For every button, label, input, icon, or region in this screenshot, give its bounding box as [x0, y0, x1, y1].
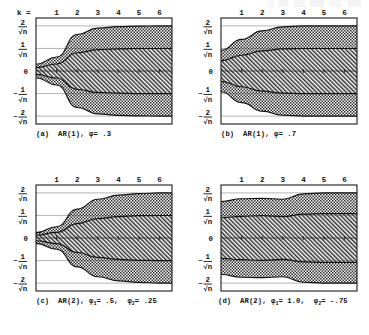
svg-text:AR(2),: AR(2), — [240, 297, 266, 305]
x-tick-label-6: 6 — [342, 9, 347, 17]
panel-a: 2√n1√n01√n–2√n–123456k =(a) AR(1), φ = .… — [0, 0, 185, 167]
panel-d-caption: (d) AR(2), φ1 = 1.0, φ2 = -.75 — [218, 297, 348, 307]
svg-text:AR(2),: AR(2), — [58, 297, 84, 305]
x-tick-label-6: 6 — [157, 9, 162, 17]
svg-text:–: – — [198, 255, 203, 264]
svg-text:1: 1 — [21, 86, 26, 94]
svg-text:√n: √n — [203, 285, 212, 293]
y-tick-label-0: 0 — [209, 68, 214, 76]
svg-text:√n: √n — [18, 28, 27, 36]
y-tick-label-m2: 2√n– — [13, 276, 27, 293]
svg-text:1: 1 — [206, 86, 211, 94]
panel-d: 2√n1√n01√n–2√n–123456(d) AR(2), φ1 = 1.0… — [185, 167, 369, 335]
x-tick-label-6: 6 — [157, 176, 162, 184]
x-tick-label-4: 4 — [116, 176, 121, 184]
svg-text:–: – — [13, 111, 18, 120]
svg-text:2: 2 — [206, 186, 210, 194]
svg-text:√n: √n — [18, 263, 27, 271]
svg-text:1: 1 — [206, 253, 211, 261]
y-tick-label-p2: 2√n — [18, 186, 27, 203]
y-tick-label-m1: 1√n– — [198, 253, 212, 270]
y-tick-label-m1: 1√n– — [13, 253, 27, 270]
svg-text:2: 2 — [21, 276, 25, 284]
x-tick-label-2: 2 — [260, 176, 265, 184]
y-tick-label-0: 0 — [209, 235, 214, 243]
svg-text:–: – — [198, 88, 203, 97]
panel-a-caption: (a) AR(1), φ = .3 — [36, 130, 111, 138]
panel-c-plot: 2√n1√n01√n–2√n–123456(c) AR(2), φ1 = .5,… — [0, 167, 185, 335]
svg-text:√n: √n — [203, 96, 212, 104]
x-tick-label-3: 3 — [281, 9, 286, 17]
svg-text:√n: √n — [203, 118, 212, 126]
svg-text:–: – — [13, 255, 18, 264]
y-tick-label-p1: 1√n — [203, 208, 212, 225]
svg-text:= .7: = .7 — [278, 130, 296, 138]
svg-text:√n: √n — [18, 285, 27, 293]
svg-text:√n: √n — [18, 118, 27, 126]
svg-text:1: 1 — [21, 253, 26, 261]
figure-sheet: 2√n1√n01√n–2√n–123456k =(a) AR(1), φ = .… — [0, 0, 369, 335]
svg-text:(a): (a) — [36, 130, 49, 138]
svg-text:√n: √n — [203, 218, 212, 226]
svg-text:(d): (d) — [218, 297, 231, 305]
svg-text:(b): (b) — [221, 130, 234, 138]
panel-b: 2√n1√n01√n–2√n–123456(b) AR(1), φ = .7 — [185, 0, 369, 167]
y-tick-label-m1: 1√n– — [198, 86, 212, 103]
svg-text:√n: √n — [18, 96, 27, 104]
svg-text:√n: √n — [18, 195, 27, 203]
y-tick-label-p1: 1√n — [18, 208, 27, 225]
x-tick-label-2: 2 — [75, 176, 80, 184]
svg-text:= .5,: = .5, — [96, 297, 118, 305]
svg-text:= -.75: = -.75 — [321, 297, 347, 305]
svg-text:1: 1 — [21, 41, 26, 49]
svg-text:1: 1 — [206, 41, 211, 49]
x-tick-label-5: 5 — [137, 176, 142, 184]
svg-text:= .3: = .3 — [93, 130, 111, 138]
x-tick-label-6: 6 — [342, 176, 347, 184]
svg-text:1: 1 — [21, 208, 26, 216]
svg-text:√n: √n — [203, 195, 212, 203]
svg-text:2: 2 — [21, 109, 25, 117]
svg-text:2: 2 — [206, 19, 210, 27]
svg-text:–: – — [198, 111, 203, 120]
y-tick-label-p2: 2√n — [18, 19, 27, 36]
svg-text:√n: √n — [18, 51, 27, 59]
svg-text:AR(1),: AR(1), — [58, 130, 84, 138]
svg-text:= 1.0,: = 1.0, — [278, 297, 304, 305]
svg-text:2: 2 — [21, 19, 25, 27]
x-tick-label-1: 1 — [54, 176, 59, 184]
y-tick-label-0: 0 — [24, 68, 29, 76]
y-tick-label-p2: 2√n — [203, 19, 212, 36]
panel-d-plot: 2√n1√n01√n–2√n–123456(d) AR(2), φ1 = 1.0… — [185, 167, 369, 335]
svg-text:= .25: = .25 — [135, 297, 157, 305]
svg-text:2: 2 — [206, 276, 210, 284]
x-tick-label-5: 5 — [322, 9, 327, 17]
svg-text:–: – — [13, 278, 18, 287]
svg-text:√n: √n — [203, 263, 212, 271]
x-tick-label-5: 5 — [322, 176, 327, 184]
x-tick-label-1: 1 — [239, 9, 244, 17]
svg-text:–: – — [13, 88, 18, 97]
x-tick-label-2: 2 — [75, 9, 80, 17]
svg-text:√n: √n — [203, 28, 212, 36]
x-tick-label-5: 5 — [137, 9, 142, 17]
x-tick-label-4: 4 — [301, 176, 306, 184]
x-axis-prefix-label: k = — [17, 9, 31, 17]
x-tick-label-2: 2 — [260, 9, 265, 17]
y-tick-label-0: 0 — [24, 235, 29, 243]
x-tick-label-3: 3 — [281, 176, 286, 184]
y-tick-label-m2: 2√n– — [198, 276, 212, 293]
svg-text:2: 2 — [206, 109, 210, 117]
svg-text:√n: √n — [18, 218, 27, 226]
svg-text:2: 2 — [21, 186, 25, 194]
x-tick-label-3: 3 — [96, 176, 101, 184]
panel-a-plot: 2√n1√n01√n–2√n–123456k =(a) AR(1), φ = .… — [0, 0, 185, 167]
svg-text:AR(1),: AR(1), — [243, 130, 269, 138]
x-tick-label-1: 1 — [54, 9, 59, 17]
x-tick-label-4: 4 — [301, 9, 306, 17]
panel-c-caption: (c) AR(2), φ1 = .5, φ2 = .25 — [36, 297, 157, 307]
x-tick-label-4: 4 — [116, 9, 121, 17]
y-tick-label-m1: 1√n– — [13, 86, 27, 103]
y-tick-label-p1: 1√n — [203, 41, 212, 58]
panel-b-plot: 2√n1√n01√n–2√n–123456(b) AR(1), φ = .7 — [185, 0, 369, 167]
